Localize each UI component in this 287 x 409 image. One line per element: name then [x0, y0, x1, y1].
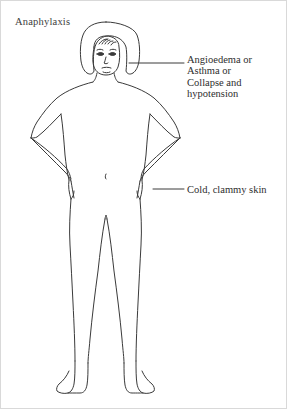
diagram-page: Anaphylaxis Angioedema or Asthma or Coll… — [0, 0, 287, 409]
callout-cold-clammy-skin-label: Cold, clammy skin — [187, 184, 267, 195]
callout-1-line-1: Angioedema or — [187, 54, 252, 65]
callout-1-line-4: hypotension — [187, 88, 252, 99]
head-and-face — [80, 22, 139, 75]
body-outline — [31, 73, 180, 393]
callout-1-line-3: Collapse and — [187, 77, 252, 88]
callout-2-line-1: Cold, clammy skin — [187, 184, 267, 195]
navel-mark — [105, 174, 106, 179]
page-title: Anaphylaxis — [15, 17, 70, 28]
callout-1-line-2: Asthma or — [187, 65, 252, 76]
callout-angioedema-label: Angioedema or Asthma or Collapse and hyp… — [187, 54, 252, 100]
